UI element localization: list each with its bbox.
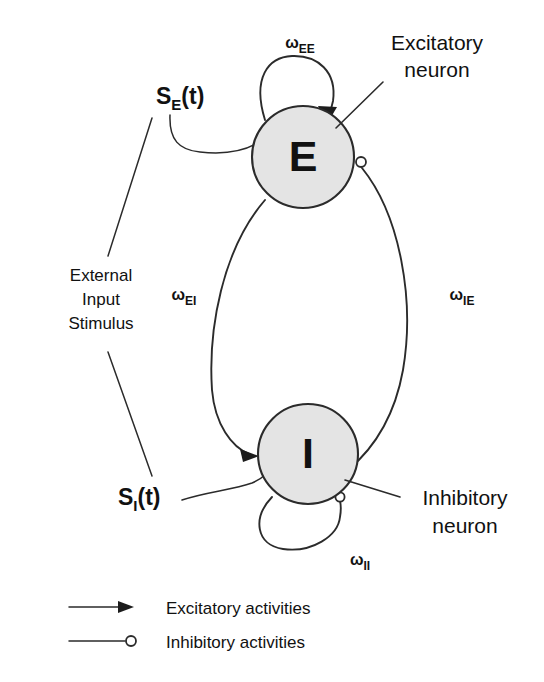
weight-ei-subscript: EI — [185, 294, 196, 308]
weight-ie-label: ωIE — [450, 286, 475, 308]
legend-item-inhibitory: Inhibitory activities — [69, 633, 305, 652]
ei-path — [211, 200, 265, 454]
inhibitory-neuron-letter: I — [302, 429, 314, 477]
label-weight-ei: ωEI — [172, 286, 197, 308]
node-inhibitory-neuron[interactable]: I — [258, 404, 358, 504]
external-stimulus-line2: Input — [82, 290, 120, 309]
external-stimulus-line3: Stimulus — [68, 314, 133, 333]
stimulus-i-path — [182, 474, 266, 500]
callout-inhibitory-neuron: Inhibitory neuron — [345, 480, 508, 537]
label-weight-ee: ωEE — [285, 34, 315, 56]
connection-stimulus-i — [182, 474, 266, 500]
label-weight-ie: ωIE — [450, 286, 475, 308]
label-weight-ii: ωII — [350, 551, 370, 573]
legend-inhibitory-terminal — [126, 636, 136, 646]
stimulus-i-symbol: S — [118, 484, 133, 510]
excitatory-callout-leader — [336, 82, 383, 128]
weight-ii-label: ωII — [350, 551, 370, 573]
stimulus-i-argument: (t) — [138, 484, 161, 510]
weight-ie-subscript: IE — [463, 294, 474, 308]
weight-ei-symbol: ω — [172, 286, 186, 303]
excitatory-neuron-letter: E — [289, 132, 318, 180]
legend-inhibitory-label: Inhibitory activities — [166, 633, 305, 652]
diagram-canvas: E I Excitatory neuron Inhibitory neuron … — [0, 0, 544, 682]
stimulus-e-subscript: E — [171, 96, 181, 113]
external-leader-lower — [108, 352, 152, 476]
ie-path — [348, 168, 407, 470]
stimulus-e-symbol: S — [156, 83, 171, 109]
label-external-stimulus: External Input Stimulus — [68, 266, 133, 333]
excitatory-callout-line1: Excitatory — [391, 31, 484, 54]
legend-item-excitatory: Excitatory activities — [69, 599, 311, 618]
weight-ie-symbol: ω — [450, 286, 464, 303]
weight-ee-label: ωEE — [285, 34, 315, 56]
legend: Excitatory activities Inhibitory activit… — [69, 599, 311, 652]
weight-ii-symbol: ω — [350, 551, 364, 568]
label-stimulus-e: SE(t) — [156, 83, 204, 113]
label-stimulus-i: SI(t) — [118, 484, 161, 514]
ie-inhibitory-terminal — [356, 157, 366, 167]
weight-ei-label: ωEI — [172, 286, 197, 308]
inhibitory-callout-line2: neuron — [432, 514, 497, 537]
connection-stimulus-e — [170, 115, 256, 153]
connection-ei-excitatory — [211, 200, 265, 462]
stimulus-e-argument: (t) — [181, 83, 204, 109]
weight-ee-subscript: EE — [299, 42, 315, 56]
connection-ie-inhibitory — [348, 157, 407, 470]
stimulus-e-path — [170, 115, 256, 153]
inhibitory-callout-leader — [345, 480, 400, 497]
legend-excitatory-arrowhead — [118, 601, 134, 613]
weight-ii-subscript: II — [363, 559, 370, 573]
weight-ee-symbol: ω — [285, 34, 299, 51]
legend-excitatory-label: Excitatory activities — [166, 599, 311, 618]
callout-excitatory-neuron: Excitatory neuron — [336, 31, 484, 128]
external-stimulus-line1: External — [70, 266, 132, 285]
stimulus-e-label: SE(t) — [156, 83, 204, 113]
external-leader-upper — [108, 118, 152, 256]
inhibitory-callout-line1: Inhibitory — [422, 486, 508, 509]
excitatory-callout-line2: neuron — [404, 58, 469, 81]
node-excitatory-neuron[interactable]: E — [252, 106, 354, 208]
stimulus-i-label: SI(t) — [118, 484, 161, 514]
ii-loop-path — [259, 497, 340, 550]
ei-arrowhead — [240, 449, 259, 462]
network-diagram-svg: E I Excitatory neuron Inhibitory neuron … — [0, 0, 544, 682]
